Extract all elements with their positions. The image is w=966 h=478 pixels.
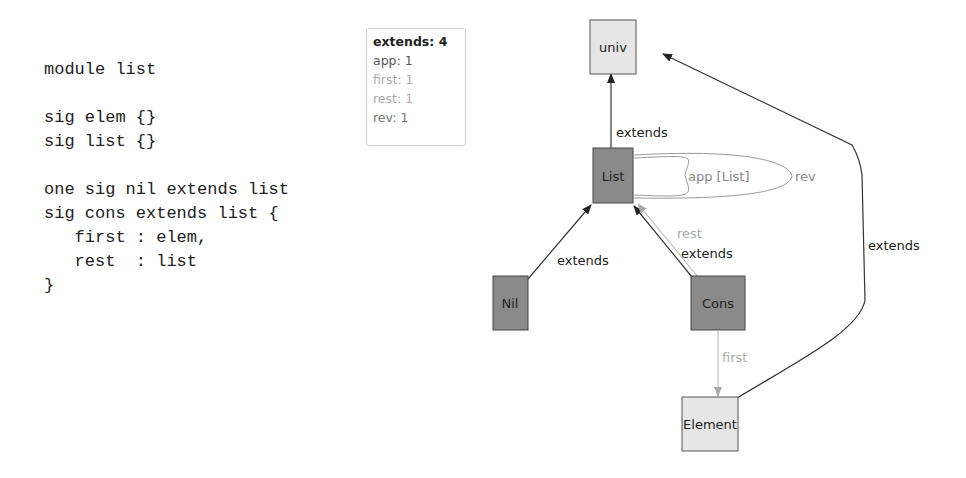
edge-cons-rest-list: rest	[638, 204, 702, 277]
node-element[interactable]: Element	[682, 397, 738, 451]
edge-label: extends	[616, 125, 668, 140]
edge-label: extends	[557, 253, 609, 268]
edge-label: first	[722, 350, 747, 365]
node-list[interactable]: List	[593, 148, 633, 203]
node-cons[interactable]: Cons	[691, 276, 745, 330]
node-univ[interactable]: univ	[590, 20, 636, 74]
node-label: Cons	[702, 296, 734, 311]
node-label: univ	[599, 40, 627, 55]
edge-label: rev	[795, 169, 816, 184]
node-label: List	[602, 169, 625, 184]
edge-label: extends	[681, 246, 733, 261]
edge-label: rest	[677, 226, 702, 241]
type-graph: extends extends app [List] rev extends e…	[0, 0, 966, 478]
edge-label: app [List]	[688, 169, 749, 184]
edge-label: extends	[868, 238, 920, 253]
node-label: Nil	[502, 296, 519, 311]
edge-list-app-self: app [List]	[634, 157, 749, 196]
edge-nil-extends-list: extends	[528, 205, 609, 279]
node-label: Element	[683, 417, 737, 432]
edge-cons-first-element: first	[718, 331, 747, 396]
node-nil[interactable]: Nil	[493, 276, 528, 330]
edge-list-extends-univ: extends	[611, 74, 668, 148]
